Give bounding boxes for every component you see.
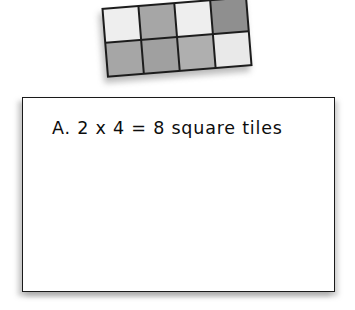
tile-r2c1: [107, 41, 143, 75]
tile-r2c2: [142, 38, 178, 72]
tile-r1c1: [104, 7, 140, 41]
tile-r2c3: [178, 35, 214, 69]
tile-r1c3: [175, 1, 211, 35]
tile-r2c4: [214, 32, 250, 66]
tile-r1c2: [140, 4, 176, 38]
square-tiles-array: [101, 0, 252, 78]
tile-r1c4: [211, 0, 247, 33]
worksheet-canvas: A. 2 x 4 = 8 square tiles: [0, 0, 355, 310]
answer-box[interactable]: A. 2 x 4 = 8 square tiles: [22, 97, 335, 292]
answer-choice-text: A. 2 x 4 = 8 square tiles: [52, 118, 283, 138]
tile-grid: [101, 0, 252, 78]
